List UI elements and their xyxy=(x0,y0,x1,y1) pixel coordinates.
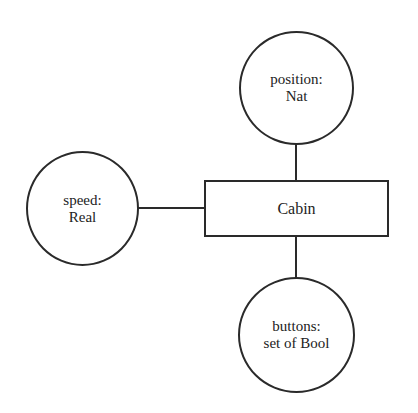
attribute-name-label: buttons: xyxy=(272,318,320,335)
attribute-type-label: Nat xyxy=(286,88,308,105)
attribute-node-buttons: buttons: set of Bool xyxy=(238,277,355,393)
diagram-canvas: position: Nat speed: Real Cabin buttons:… xyxy=(0,0,418,413)
attribute-name-label: position: xyxy=(270,71,323,88)
entity-label: Cabin xyxy=(277,200,315,218)
entity-node-cabin: Cabin xyxy=(204,180,389,237)
attribute-node-speed: speed: Real xyxy=(26,151,139,266)
attribute-type-label: set of Bool xyxy=(264,335,330,352)
edge-cabin-speed xyxy=(137,207,205,209)
attribute-node-position: position: Nat xyxy=(239,31,354,145)
attribute-name-label: speed: xyxy=(63,192,101,209)
edge-cabin-buttons xyxy=(295,235,297,278)
edge-cabin-position xyxy=(295,143,297,181)
attribute-type-label: Real xyxy=(69,209,97,226)
